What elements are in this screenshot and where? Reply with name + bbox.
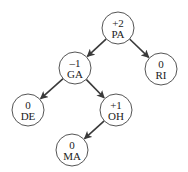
node-label: MA: [63, 150, 81, 162]
tree-diagram: +2PA–1GA0RI0DE+1OH0MA: [0, 0, 188, 172]
node-ma: 0MA: [56, 134, 88, 166]
node-ri: 0RI: [145, 53, 177, 85]
node-label: GA: [67, 68, 83, 80]
edges-group: [41, 39, 149, 139]
edge-pa-ga-arrow: [87, 39, 106, 57]
node-ga: –1GA: [59, 52, 91, 84]
edge-ga-de-arrow: [41, 79, 63, 99]
edge-oh-ma-arrow: [85, 121, 105, 139]
node-oh: +1OH: [100, 94, 132, 126]
edge-ga-oh-arrow: [86, 79, 104, 97]
node-label: RI: [156, 69, 167, 81]
node-label: PA: [111, 28, 124, 40]
node-label: OH: [108, 110, 124, 122]
node-label: DE: [21, 110, 36, 122]
node-pa: +2PA: [102, 12, 134, 44]
node-de: 0DE: [12, 94, 44, 126]
edge-pa-ri-arrow: [130, 39, 149, 57]
